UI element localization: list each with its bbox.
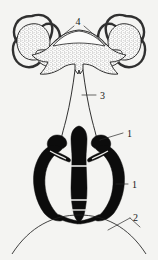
label-1-upper: 1 <box>127 128 132 139</box>
label-4: 4 <box>76 16 81 27</box>
label-2: 2 <box>133 212 138 223</box>
figure-container: 4 3 1 1 2 <box>0 0 158 260</box>
anatomical-figure-svg: 4 3 1 1 2 <box>0 0 158 260</box>
label-1-lower: 1 <box>132 179 137 190</box>
label-3: 3 <box>100 90 105 101</box>
